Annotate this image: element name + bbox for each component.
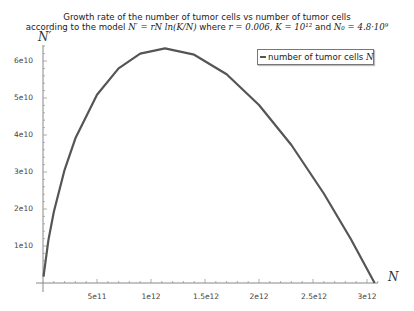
y-tick-label: 2e10 [14,204,33,213]
y-tick-label: 6e10 [14,56,33,65]
y-tick-label: 1e10 [14,241,33,250]
plot-area [0,0,414,311]
x-tick-label: 2e12 [247,292,271,301]
x-tick-label: 2.5e12 [301,292,325,301]
x-tick-label: 1e12 [139,292,163,301]
x-tick-label: 5e11 [85,292,109,301]
legend-label: number of tumor cells [268,52,366,62]
y-tick-label: 4e10 [14,130,33,139]
legend-var: N [366,52,374,62]
legend-swatch [260,56,266,58]
data-curve [44,48,375,283]
axes [36,45,378,292]
y-tick-label: 3e10 [14,167,33,176]
x-tick-label: 1.5e12 [193,292,217,301]
y-tick-label: 5e10 [14,93,33,102]
legend: number of tumor cells N [257,49,374,65]
x-tick-label: 3e12 [355,292,379,301]
